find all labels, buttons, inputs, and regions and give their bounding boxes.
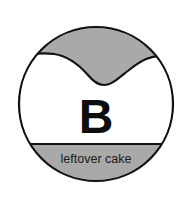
bottom-region-caption: leftover cake bbox=[61, 152, 132, 166]
region-letter-label: B bbox=[79, 90, 114, 143]
figure-canvas: B leftover cake bbox=[0, 0, 191, 212]
leftover-cake-diagram: B leftover cake bbox=[0, 0, 191, 212]
